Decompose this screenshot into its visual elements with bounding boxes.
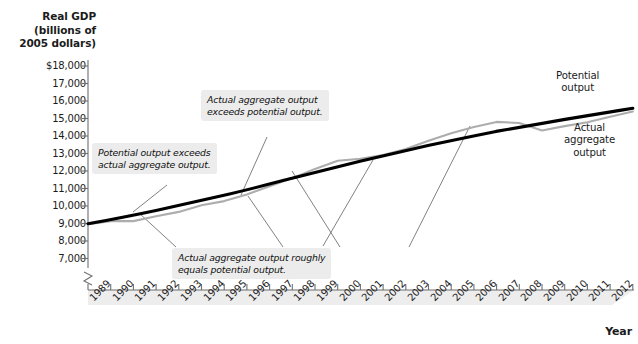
annotation-line: Potential output exceeds bbox=[98, 147, 211, 159]
annotation-actual-equals-potential: Actual aggregate output roughly equals p… bbox=[172, 248, 331, 279]
annotation-line: exceeds potential output. bbox=[207, 106, 323, 118]
x-axis-title: Year bbox=[605, 325, 632, 338]
annotation-line: Actual aggregate output roughly bbox=[178, 252, 325, 264]
series-label-line: output bbox=[564, 147, 615, 159]
y-axis-ticks bbox=[82, 66, 88, 259]
annotation-actual-exceeds-potential: Actual aggregate output exceeds potentia… bbox=[201, 90, 329, 121]
annotation-potential-exceeds-actual: Potential output exceeds actual aggregat… bbox=[92, 143, 217, 174]
annotation-line: actual aggregate output. bbox=[98, 159, 211, 171]
series-label-line: aggregate bbox=[564, 134, 615, 146]
series-label-line: output bbox=[556, 82, 599, 94]
y-axis-break-symbol bbox=[84, 272, 92, 285]
annotation-line: Actual aggregate output bbox=[207, 94, 323, 106]
series-label-actual-aggregate-output: Actual aggregate output bbox=[564, 122, 615, 159]
series-label-potential-output: Potential output bbox=[556, 70, 599, 95]
annotation-line: equals potential output. bbox=[178, 264, 325, 276]
real-gdp-output-gap-chart: Real GDP (billions of 2005 dollars) $18,… bbox=[0, 0, 638, 344]
series-label-line: Potential bbox=[556, 70, 599, 82]
series-label-line: Actual bbox=[564, 122, 615, 134]
